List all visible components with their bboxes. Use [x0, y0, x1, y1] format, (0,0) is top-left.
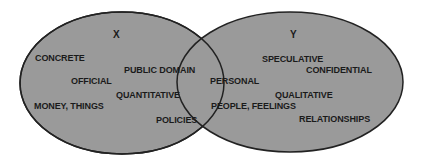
set-x-label: X: [113, 30, 120, 40]
item-speculative: SPECULATIVE: [262, 55, 323, 64]
item-concrete: CONCRETE: [35, 54, 85, 63]
item-money-things: MONEY, THINGS: [34, 102, 104, 111]
item-policies: POLICIES: [156, 116, 197, 125]
item-qualitative: QUALITATIVE: [275, 91, 333, 100]
item-people-feelings: PEOPLE, FEELINGS: [211, 102, 296, 111]
item-personal: PERSONAL: [210, 77, 259, 86]
item-quantitative: QUANTITATIVE: [116, 91, 180, 100]
item-official: OFFICIAL: [71, 77, 112, 86]
set-y-label: Y: [290, 30, 297, 40]
item-confidential: CONFIDENTIAL: [306, 66, 372, 75]
item-relationships: RELATIONSHIPS: [299, 115, 370, 124]
item-public-domain: PUBLIC DOMAIN: [124, 66, 195, 75]
